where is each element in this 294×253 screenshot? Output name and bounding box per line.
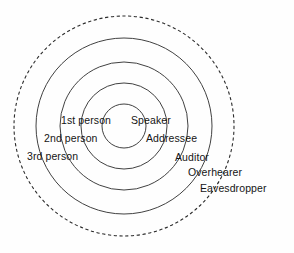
ring-auditor [60, 62, 188, 190]
label-eavesdropper: Eavesdropper [200, 182, 267, 194]
label-overhearer: Overhearer [188, 166, 242, 178]
ring-speaker [102, 104, 146, 148]
ring-eavesdropper [14, 16, 234, 236]
label-2nd-person: 2nd person [44, 132, 98, 144]
concentric-rings-graphic [0, 0, 294, 253]
label-3rd-person: 3rd person [27, 150, 78, 162]
label-addressee: Addressee [146, 132, 197, 144]
participant-roles-diagram: 1st person 2nd person 3rd person Speaker… [0, 0, 294, 253]
label-1st-person: 1st person [61, 114, 111, 126]
ring-addressee [81, 83, 167, 169]
label-speaker: Speaker [131, 114, 171, 126]
ring-overhearer [36, 38, 212, 214]
label-auditor: Auditor [175, 151, 209, 163]
